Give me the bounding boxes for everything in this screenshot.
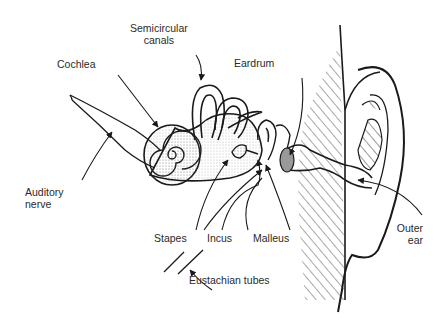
outer-ear-shape [338,67,404,312]
label-eardrum: Eardrum [234,57,274,69]
label-eustachian-tubes: Eustachian tubes [189,274,270,286]
label-malleus: Malleus [253,232,289,244]
label-outer-ear: Outer ear [395,222,423,246]
label-cochlea: Cochlea [57,58,96,70]
label-auditory-nerve: Auditory nerve [25,186,64,210]
label-incus: Incus [207,232,232,244]
ear-anatomy-diagram: Semicircular canals Cochlea Eardrum Audi… [0,0,445,324]
leader-lines [82,55,422,290]
label-stapes: Stapes [154,232,187,244]
eustachian-tubes-shape [164,250,203,274]
label-semicircular-canals: Semicircular canals [130,22,188,46]
